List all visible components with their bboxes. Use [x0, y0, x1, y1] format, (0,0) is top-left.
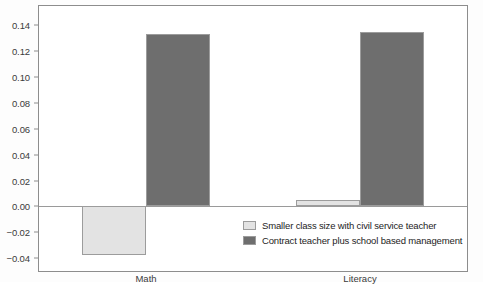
y-axis-tick-label: 0.12 — [12, 46, 30, 57]
y-axis-tick-label: −0.02 — [6, 227, 30, 238]
y-axis-tick-label: 0.08 — [12, 97, 30, 108]
x-axis: MathLiteracy — [38, 272, 468, 282]
y-axis-tick-label: −0.04 — [6, 253, 30, 264]
y-axis-tick-label: 0.00 — [12, 201, 30, 212]
y-axis-tick-label: 0.06 — [12, 123, 30, 134]
y-axis-tick-label: 0.14 — [12, 20, 30, 31]
chart-legend: Smaller class size with civil service te… — [243, 218, 462, 248]
legend-item: Contract teacher plus school based manag… — [243, 233, 462, 248]
bar — [296, 200, 360, 206]
legend-label: Smaller class size with civil service te… — [262, 220, 436, 231]
y-axis-tick-label: 0.02 — [12, 175, 30, 186]
y-axis-tick-label: 0.04 — [12, 149, 30, 160]
x-axis-tick-label: Literacy — [343, 273, 376, 284]
bar — [82, 206, 146, 255]
legend-swatch — [243, 221, 256, 230]
bar — [360, 32, 424, 207]
bar — [146, 34, 210, 206]
y-axis: −0.04−0.020.000.020.040.060.080.100.120.… — [0, 0, 38, 282]
legend-label: Contract teacher plus school based manag… — [262, 235, 462, 246]
x-axis-tick-label: Math — [135, 273, 156, 284]
legend-swatch — [243, 236, 256, 245]
legend-item: Smaller class size with civil service te… — [243, 218, 462, 233]
y-axis-tick-label: 0.10 — [12, 72, 30, 83]
